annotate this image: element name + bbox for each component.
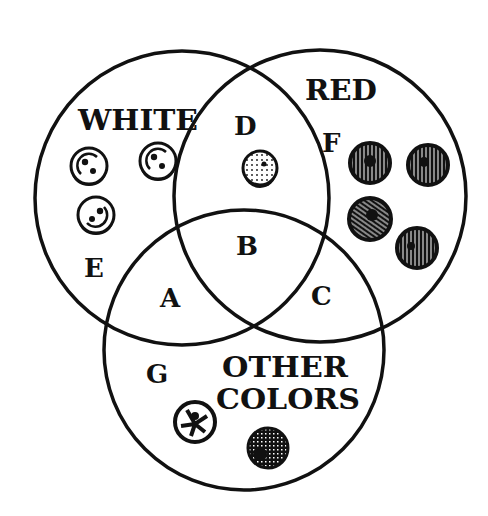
region-label-c: C [311, 281, 332, 311]
region-label-d: D [234, 111, 257, 141]
region-label-b: B [236, 231, 258, 261]
venn-diagram: WHITE RED OTHER COLORS D F E B A C G [0, 0, 488, 516]
white-candy-icon [78, 197, 114, 235]
white-set-label: WHITE [77, 104, 198, 137]
other-candy-icon [248, 428, 288, 468]
other-set-label-line1: OTHER [222, 351, 349, 384]
region-label-e: E [84, 253, 104, 283]
red-candy-icon [397, 228, 437, 268]
white-candy-icon [140, 143, 176, 181]
red-candy-icon [349, 198, 391, 240]
region-label-g: G [146, 359, 168, 389]
speckled-candy-icon [243, 151, 277, 188]
region-label-f: F [322, 128, 341, 158]
white-set-circle [35, 51, 329, 345]
red-set-label: RED [305, 74, 377, 107]
white-candy-icon [71, 148, 107, 186]
red-candy-icon [350, 143, 390, 183]
red-candy-icon [408, 145, 448, 185]
other-candy-icon [175, 402, 215, 442]
region-label-a: A [159, 283, 181, 313]
other-set-label-line2: COLORS [216, 383, 360, 416]
